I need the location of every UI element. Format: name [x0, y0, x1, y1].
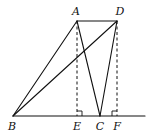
segment-ac	[77, 21, 100, 116]
diagram-canvas	[0, 0, 152, 137]
label-f: F	[113, 121, 121, 132]
label-c: C	[96, 121, 104, 132]
geometry-figure: A D B E C F	[0, 0, 152, 137]
segment-ab	[13, 21, 77, 116]
label-b: B	[8, 121, 16, 132]
label-e: E	[73, 121, 81, 132]
right-angle-mark-f	[112, 111, 117, 116]
segment-dc	[100, 21, 117, 116]
right-angle-mark-e	[77, 111, 82, 116]
label-a: A	[72, 6, 80, 17]
label-d: D	[116, 6, 125, 17]
segment-bd	[13, 21, 117, 116]
